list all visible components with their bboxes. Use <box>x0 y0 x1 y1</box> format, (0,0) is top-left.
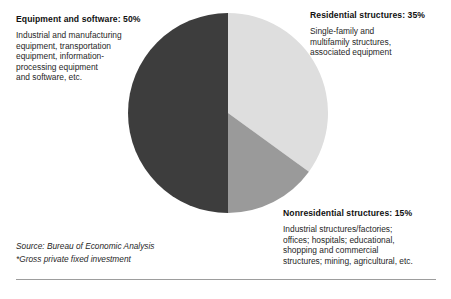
callout-description-line: and software, etc. <box>16 72 166 83</box>
callout-description-line: Industrial and manufacturing <box>16 30 166 41</box>
callout-residential-structures: Residential structures: 35% Single-famil… <box>310 10 445 58</box>
callout-heading-equipment-and-software: Equipment and software: 50% <box>16 14 166 25</box>
callout-description-line: offices; hospitals; educational, <box>283 235 448 246</box>
callout-nonresidential-structures: Nonresidential structures: 15% Industria… <box>283 208 448 266</box>
callout-heading-residential-structures: Residential structures: 35% <box>310 10 445 21</box>
callout-description-line: equipment, transportation <box>16 41 166 52</box>
callout-equipment-and-software: Equipment and software: 50% Industrial a… <box>16 14 166 83</box>
callout-description-line: shopping and commercial <box>283 245 448 256</box>
callout-description-nonresidential-structures: Industrial structures/factories; offices… <box>283 224 448 266</box>
pie-chart-figure: Equipment and software: 50% Industrial a… <box>0 0 451 299</box>
callout-description-line: associated equipment <box>310 47 445 58</box>
callout-heading-nonresidential-structures: Nonresidential structures: 15% <box>283 208 448 219</box>
callout-description-line: processing equipment <box>16 62 166 73</box>
footnotes: Source: Bureau of Economic Analysis *Gro… <box>16 240 266 265</box>
callout-description-line: structures; mining, agricultural, etc. <box>283 256 448 267</box>
asterisk-note: *Gross private fixed investment <box>16 253 266 266</box>
callout-description-equipment-and-software: Industrial and manufacturing equipment, … <box>16 30 166 83</box>
source-note: Source: Bureau of Economic Analysis <box>16 240 266 253</box>
callout-description-line: Industrial structures/factories; <box>283 224 448 235</box>
callout-description-line: multifamily structures, <box>310 37 445 48</box>
callout-description-line: Single-family and <box>310 26 445 37</box>
callout-description-residential-structures: Single-family and multifamily structures… <box>310 26 445 58</box>
callout-description-line: equipment, information- <box>16 51 166 62</box>
bottom-divider <box>16 279 436 280</box>
